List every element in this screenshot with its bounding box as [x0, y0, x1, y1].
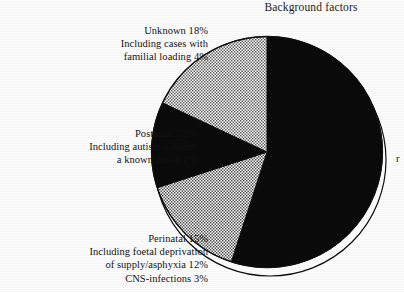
callout-perinatal-line-3: of supply/asphyxia 12% — [0, 258, 208, 271]
callout-unknown-line-3: familial loading 4% — [18, 50, 208, 63]
callout-prenatal-truncated: r — [396, 152, 400, 165]
callout-perinatal: Perinatal 15% Including foetal deprivati… — [0, 232, 208, 285]
callout-perinatal-line-2: Including foetal deprivation — [0, 245, 208, 258]
callout-perinatal-line-4: CNS-infections 3% — [0, 272, 208, 285]
callout-postnatal: Postnatal 12% Including autism without a… — [0, 127, 196, 167]
callout-perinatal-line-1: Perinatal 15% — [0, 232, 208, 245]
callout-postnatal-line-1: Postnatal 12% — [0, 127, 196, 140]
callout-unknown: Unknown 18% Including cases with familia… — [18, 24, 208, 64]
pie-chart-figure: Background factors — [0, 0, 404, 292]
callout-unknown-line-2: Including cases with — [18, 37, 208, 50]
callout-unknown-line-1: Unknown 18% — [18, 24, 208, 37]
callout-postnatal-line-3: a known cause 1% — [0, 153, 196, 166]
callout-postnatal-line-2: Including autism without — [0, 140, 196, 153]
